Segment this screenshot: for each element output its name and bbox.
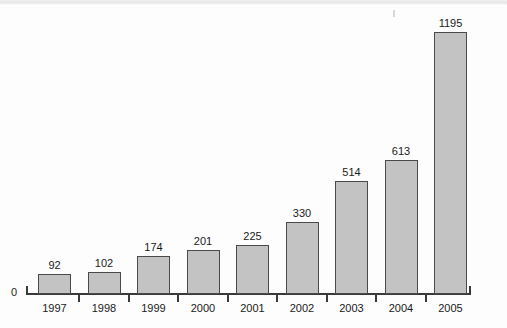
x-axis-right-cap [469,286,471,294]
plot-area: 0 921021742012253305146131195 1997199819… [0,0,507,328]
bar-value-1998: 102 [75,257,134,269]
x-axis-tick-5 [326,295,328,302]
x-axis-tick-4 [276,295,278,302]
x-axis-tick-3 [227,295,229,302]
bar-2005 [434,32,467,294]
bar-value-2002: 330 [273,207,332,219]
x-axis-left-cap [26,286,28,294]
bar-value-2001: 225 [223,230,282,242]
bar-1999 [137,256,170,294]
x-axis-tick-7 [425,295,427,302]
y-axis-zero-label: 0 [11,286,17,298]
x-axis-tick-6 [375,295,377,302]
bar-chart: 0 921021742012253305146131195 1997199819… [0,0,507,328]
bar-2002 [286,222,319,294]
x-axis-tick-0 [78,295,80,302]
bar-2003 [335,181,368,294]
bar-value-2003: 514 [322,166,381,178]
x-axis-tick-2 [177,295,179,302]
bar-1997 [38,274,71,294]
x-axis-tick-1 [128,295,130,302]
bar-2001 [236,245,269,294]
bar-2000 [187,250,220,294]
bar-value-2005: 1195 [421,17,480,29]
bar-2004 [385,160,418,294]
x-label-2005: 2005 [421,302,480,314]
bar-1998 [88,272,121,294]
bar-value-2004: 613 [372,145,431,157]
